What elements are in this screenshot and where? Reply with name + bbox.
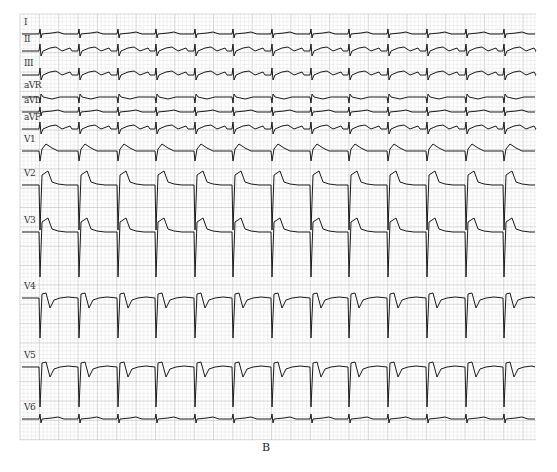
lead-label-ii: II: [24, 34, 30, 44]
lead-trace-v1: [22, 144, 535, 161]
ecg-figure: IIIIIIaVRaVLaVFV1V2V3V4V5V6 B: [0, 0, 557, 472]
lead-trace-iii: [22, 68, 536, 80]
lead-trace-ii: [22, 44, 536, 56]
lead-trace-v5: [22, 362, 535, 407]
lead-label-v4: V4: [24, 281, 35, 291]
lead-label-v6: V6: [24, 402, 35, 412]
grid: [20, 14, 536, 440]
ecg-tracing: [0, 0, 557, 472]
lead-label-iii: III: [24, 58, 33, 68]
lead-label-v2: V2: [24, 168, 35, 178]
figure-caption: B: [262, 441, 270, 454]
lead-trace-v6: [22, 414, 535, 423]
lead-label-v5: V5: [24, 350, 35, 360]
lead-trace-v2: [22, 171, 535, 230]
lead-trace-avf: [22, 122, 536, 134]
lead-label-avf: aVF: [24, 112, 41, 122]
lead-label-i: I: [24, 17, 27, 27]
lead-label-v3: V3: [24, 215, 35, 225]
lead-label-avl: aVL: [24, 95, 40, 105]
lead-label-v1: V1: [24, 134, 35, 144]
lead-label-avr: aVR: [24, 80, 41, 90]
